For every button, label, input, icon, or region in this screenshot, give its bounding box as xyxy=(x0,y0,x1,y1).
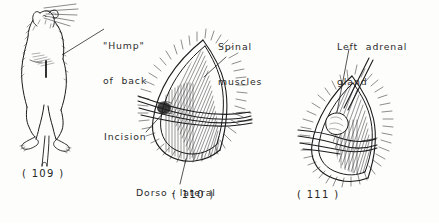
rat-fur-ticks-icon xyxy=(21,20,68,81)
adrenal-gland-nodule xyxy=(326,113,348,135)
label-dorso-line2: abdominal muscles xyxy=(136,222,245,224)
label-adrenal-line2: gland xyxy=(337,76,407,88)
leader-line-incision xyxy=(146,110,166,132)
rat-standing-illustration xyxy=(20,4,78,166)
label-hump-of-back: "Hump" of back xyxy=(103,17,147,109)
rat-hump-shading xyxy=(32,53,54,66)
figure-number-111: ( 111 ) xyxy=(297,189,339,200)
label-spinal-line2: muscles xyxy=(218,76,262,88)
muscle-fiber-hatch-110 xyxy=(168,44,219,166)
label-spinal-muscles: Spinal muscles xyxy=(218,18,262,110)
label-hump-line1: "Hump" xyxy=(103,40,147,52)
label-adrenal-line1: Left adrenal xyxy=(337,41,407,53)
label-hump-line2: of back xyxy=(103,75,147,87)
figure-number-109: ( 109 ) xyxy=(22,168,64,179)
anatomy-plate: "Hump" of back Spinal muscles Left adren… xyxy=(0,0,439,223)
leader-line-hump xyxy=(62,29,104,55)
label-spinal-line1: Spinal xyxy=(218,41,262,53)
figure-number-110: ( 110 ) xyxy=(172,189,214,200)
rat-whiskers-icon xyxy=(44,4,78,26)
label-incision: Incision xyxy=(104,131,147,143)
label-left-adrenal-gland: Left adrenal gland xyxy=(337,18,407,110)
